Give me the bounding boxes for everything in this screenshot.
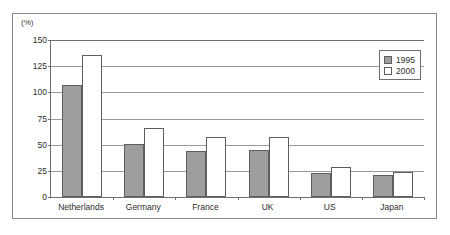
y-axis-tick-label: 150 <box>33 35 47 45</box>
bar-group <box>124 40 164 197</box>
x-axis-tick-mark <box>424 197 425 200</box>
bar-1995-netherlands[interactable] <box>62 85 82 197</box>
bar-1995-germany[interactable] <box>124 144 144 197</box>
legend-item-2000: 2000 <box>384 65 415 76</box>
y-axis-tick-mark <box>48 197 51 198</box>
x-axis-label-us: US <box>324 202 336 212</box>
bar-2000-japan[interactable] <box>393 172 413 197</box>
x-axis-tick-mark <box>238 197 239 200</box>
y-axis-tick-label: 100 <box>33 87 47 97</box>
chart-figure: (%) 0255075100125150 NetherlandsGermanyF… <box>12 13 437 219</box>
legend-label-2000: 2000 <box>396 66 415 76</box>
bar-1995-us[interactable] <box>311 173 331 197</box>
bar-2000-netherlands[interactable] <box>82 55 102 197</box>
bar-group <box>62 40 102 197</box>
x-axis-tick-mark <box>300 197 301 200</box>
bar-1995-france[interactable] <box>186 151 206 197</box>
x-axis-label-japan: Japan <box>380 202 403 212</box>
bar-group <box>249 40 289 197</box>
chart-legend: 1995 2000 <box>379 50 421 80</box>
bar-2000-us[interactable] <box>331 167 351 197</box>
x-axis-label-germany: Germany <box>126 202 161 212</box>
plot-area: 0255075100125150 <box>50 40 424 198</box>
bar-2000-germany[interactable] <box>144 128 164 197</box>
bar-2000-uk[interactable] <box>269 137 289 197</box>
y-axis-unit-label: (%) <box>21 18 33 27</box>
bar-1995-japan[interactable] <box>373 175 393 197</box>
legend-swatch-1995-icon <box>384 56 392 64</box>
x-axis-labels: NetherlandsGermanyFranceUKUSJapan <box>50 202 423 216</box>
y-axis-tick-label: 0 <box>42 192 47 202</box>
legend-item-1995: 1995 <box>384 54 415 65</box>
bar-2000-france[interactable] <box>206 137 226 197</box>
bars-layer <box>51 40 424 197</box>
y-axis-tick-label: 125 <box>33 61 47 71</box>
bar-group <box>186 40 226 197</box>
y-axis-tick-label: 75 <box>38 114 47 124</box>
x-axis-tick-mark <box>362 197 363 200</box>
bar-1995-uk[interactable] <box>249 150 269 197</box>
legend-label-1995: 1995 <box>396 55 415 65</box>
x-axis-tick-mark <box>113 197 114 200</box>
y-axis-tick-label: 25 <box>38 166 47 176</box>
bar-group <box>311 40 351 197</box>
x-axis-label-netherlands: Netherlands <box>58 202 104 212</box>
x-axis-label-france: France <box>192 202 218 212</box>
y-axis-tick-label: 50 <box>38 140 47 150</box>
legend-swatch-2000-icon <box>384 67 392 75</box>
x-axis-label-uk: UK <box>262 202 274 212</box>
x-axis-tick-mark <box>175 197 176 200</box>
